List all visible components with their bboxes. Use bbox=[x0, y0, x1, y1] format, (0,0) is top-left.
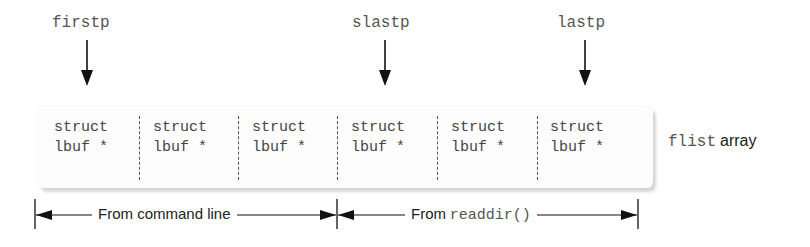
array-cell: struct lbuf * bbox=[149, 118, 249, 178]
down-arrow-icon bbox=[80, 40, 94, 88]
cell-pointer: lbuf * bbox=[153, 138, 249, 158]
pointer-label-slastp: slastp bbox=[352, 14, 410, 32]
cell-type: struct bbox=[252, 118, 348, 138]
cell-divider bbox=[238, 116, 239, 180]
cell-pointer: lbuf * bbox=[550, 138, 646, 158]
array-cell: struct lbuf * bbox=[50, 118, 150, 178]
flist-array-box: struct lbuf * struct lbuf * struct lbuf … bbox=[38, 106, 653, 188]
range-label-text: From command line bbox=[98, 205, 231, 222]
array-name-code: flist bbox=[668, 133, 716, 151]
cell-type: struct bbox=[550, 118, 646, 138]
cell-type: struct bbox=[54, 118, 150, 138]
cell-divider bbox=[139, 116, 140, 180]
array-cell: struct lbuf * bbox=[248, 118, 348, 178]
array-cell: struct lbuf * bbox=[546, 118, 646, 178]
cell-type: struct bbox=[153, 118, 249, 138]
cell-pointer: lbuf * bbox=[451, 138, 547, 158]
pointer-label-lastp: lastp bbox=[557, 14, 605, 32]
range-label-command-line: From command line bbox=[92, 205, 237, 222]
range-label-text: From bbox=[411, 205, 446, 222]
range-label-readdir: From readdir() bbox=[405, 205, 537, 224]
down-arrow-icon bbox=[578, 40, 592, 88]
range-label-code: readdir() bbox=[450, 207, 531, 224]
down-arrow-icon bbox=[378, 40, 392, 88]
cell-pointer: lbuf * bbox=[351, 138, 447, 158]
cell-type: struct bbox=[451, 118, 547, 138]
cell-pointer: lbuf * bbox=[252, 138, 348, 158]
cell-divider bbox=[337, 116, 338, 180]
array-name-label: flist array bbox=[668, 132, 756, 151]
cell-type: struct bbox=[351, 118, 447, 138]
array-name-text: array bbox=[720, 132, 756, 149]
cell-divider bbox=[537, 116, 538, 180]
cell-divider bbox=[437, 116, 438, 180]
array-cell: struct lbuf * bbox=[347, 118, 447, 178]
cell-pointer: lbuf * bbox=[54, 138, 150, 158]
pointer-label-firstp: firstp bbox=[52, 14, 110, 32]
array-cell: struct lbuf * bbox=[447, 118, 547, 178]
